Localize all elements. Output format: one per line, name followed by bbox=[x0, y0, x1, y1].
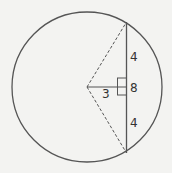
circle-chord-diagram: 4 8 4 3 bbox=[0, 0, 172, 173]
label-lower-half: 4 bbox=[130, 116, 138, 130]
label-distance: 3 bbox=[102, 87, 110, 101]
label-upper-half: 4 bbox=[130, 50, 138, 64]
label-chord-length: 8 bbox=[130, 81, 138, 95]
dashed-radius-upper bbox=[87, 22, 127, 87]
